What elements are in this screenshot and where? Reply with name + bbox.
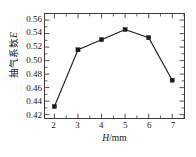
x-axis-tick-label: 3 — [75, 120, 80, 131]
plot-canvas — [45, 14, 184, 118]
x-axis-title-units: /mm — [109, 133, 126, 143]
y-axis-title-text: 抽气系数 — [8, 38, 19, 78]
data-point-marker — [52, 104, 56, 108]
data-point-marker — [76, 48, 80, 52]
x-axis-tick-label: 6 — [147, 120, 152, 131]
y-axis-tick-label: 0.48 — [26, 70, 42, 79]
y-axis-tick-label: 0.42 — [26, 111, 42, 120]
x-axis-tick-label: 7 — [171, 120, 176, 131]
x-axis-tick-label: 5 — [123, 120, 128, 131]
data-series-line — [54, 30, 172, 107]
y-axis-tick-label: 0.52 — [26, 42, 42, 51]
y-axis-title: 抽气系数E — [6, 0, 20, 110]
plot-area — [44, 13, 185, 119]
data-point-marker — [99, 38, 103, 42]
y-axis-title-container: 抽气系数E — [0, 0, 24, 157]
data-point-marker — [147, 36, 151, 40]
y-axis-tick-label: 0.44 — [26, 97, 42, 106]
y-axis-tick-label: 0.46 — [26, 84, 42, 93]
y-axis-tick-label: 0.54 — [26, 28, 42, 37]
y-axis-tick-label: 0.56 — [26, 15, 42, 24]
y-axis-tick-label: 0.50 — [26, 56, 42, 65]
x-axis-tick-labels: 234567 — [44, 120, 185, 132]
data-point-marker — [170, 78, 174, 82]
x-axis-title: H/mm — [44, 133, 185, 143]
data-point-marker — [123, 27, 127, 31]
x-axis-tick-label: 2 — [51, 120, 56, 131]
chart-screenshot: 0.420.440.460.480.500.520.540.56 抽气系数E 2… — [0, 0, 196, 157]
y-axis-title-symbol: E — [9, 32, 19, 38]
x-axis-tick-label: 4 — [99, 120, 104, 131]
